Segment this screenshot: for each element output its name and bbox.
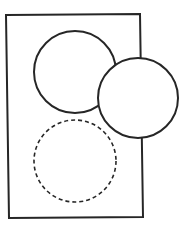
diagram-svg (0, 0, 184, 228)
diagram-canvas (0, 0, 184, 228)
solid-circle-right (98, 58, 178, 138)
